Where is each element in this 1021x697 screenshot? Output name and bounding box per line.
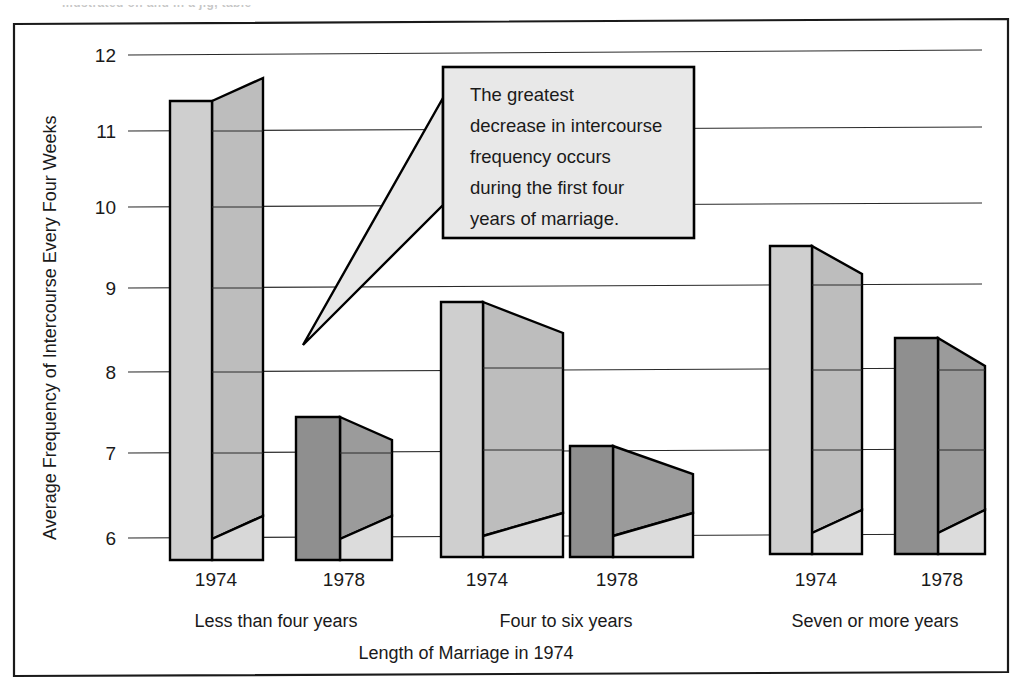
bar-side-face	[812, 246, 862, 533]
category-label: Less than four years	[194, 611, 357, 631]
bar-front-face	[170, 101, 212, 560]
category-label: Four to six years	[499, 611, 632, 631]
y-axis-title: Average Frequency of Intercourse Every F…	[40, 115, 60, 540]
annotation-callout: The greatest decrease in intercourse fre…	[443, 67, 694, 238]
y-tick-label: 10	[95, 197, 116, 218]
callout-line: decrease in intercourse	[470, 115, 662, 136]
bar-front-face	[570, 446, 613, 557]
bar-side-face	[938, 338, 985, 533]
callout-line: during the first four	[470, 177, 624, 198]
bar-1974-seven-or-more-years	[770, 246, 862, 554]
bar-front-face	[441, 302, 483, 557]
chart-figure: illustrated on and in a jig, table 12 11…	[0, 0, 1021, 697]
series-label-1978: 1978	[596, 569, 638, 590]
callout-line: frequency occurs	[470, 146, 611, 167]
bar-side-face	[483, 302, 563, 536]
callout-line: The greatest	[470, 84, 574, 105]
bar-1978-seven-or-more-years	[895, 338, 985, 554]
bar-front-face	[296, 417, 340, 560]
bar-1974-less-than-four-years	[170, 78, 263, 560]
y-tick-label: 11	[96, 121, 116, 142]
bar-1978-less-than-four-years	[296, 417, 392, 560]
callout-line: years of marriage.	[470, 208, 619, 229]
y-tick-label: 8	[105, 362, 116, 383]
y-tick-label: 7	[105, 443, 116, 464]
series-label-1978: 1978	[323, 569, 365, 590]
y-tick-label: 12	[95, 45, 116, 66]
series-label-1978: 1978	[921, 569, 963, 590]
category-label: Seven or more years	[791, 611, 958, 631]
series-label-1974: 1974	[195, 569, 238, 590]
bar-front-face	[895, 338, 938, 554]
y-tick-label: 9	[105, 278, 116, 299]
series-label-1974: 1974	[795, 569, 838, 590]
series-label-1974: 1974	[466, 569, 509, 590]
bar-1974-four-to-six-years	[441, 302, 563, 557]
x-axis-category-labels: Less than four years Four to six years S…	[194, 611, 958, 631]
y-tick-label: 6	[105, 528, 116, 549]
bar-front-face	[770, 246, 812, 554]
bar-side-face	[212, 78, 263, 539]
bar-chart-svg: 12 11 10 9 8 7 6 Average Frequency of In…	[0, 0, 1021, 697]
x-axis-title: Length of Marriage in 1974	[358, 643, 573, 663]
